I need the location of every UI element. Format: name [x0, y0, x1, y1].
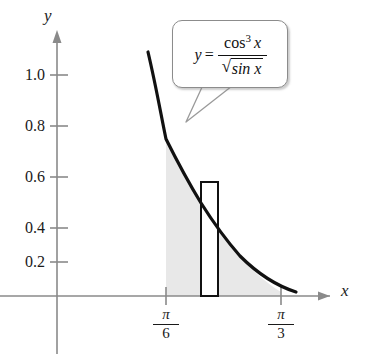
pi-symbol-2: π [268, 307, 294, 325]
denominator-6: 6 [153, 325, 179, 342]
formula-fraction: cos3x √ sin x [218, 32, 268, 78]
x-axis-arrow [318, 292, 330, 301]
radical-icon: √ [222, 57, 231, 77]
y-tick-label-2: 0.8 [5, 117, 45, 135]
pi-symbol-1: π [153, 307, 179, 325]
cos-text: cos [224, 34, 245, 51]
callout-pointer [186, 85, 232, 122]
riemann-rectangle [201, 182, 218, 296]
formula-callout-box: y = cos3x √ sin x [172, 20, 288, 88]
denominator-3: 3 [268, 325, 294, 342]
y-tick-label-4: 0.4 [5, 219, 45, 237]
x-tick-label-pi-over-3: π 3 [268, 307, 294, 342]
formula-expression: y = cos3x √ sin x [173, 21, 289, 89]
y-axis-label: y [44, 6, 52, 26]
shaded-area [166, 139, 281, 296]
formula-equals-sign: = [205, 46, 214, 64]
x-axis-label: x [341, 281, 349, 301]
numerator-variable: x [254, 34, 261, 51]
y-tick-label-5: 0.2 [5, 253, 45, 271]
radicand-sin-x: sin x [231, 58, 264, 78]
x-tick-label-pi-over-6: π 6 [153, 307, 179, 342]
square-root-group: √ sin x [222, 58, 264, 78]
y-axis-arrow [53, 30, 62, 43]
y-tick-label-1: 1.0 [5, 66, 45, 84]
formula-denominator: √ sin x [218, 56, 268, 78]
cos-exponent: 3 [245, 32, 251, 44]
formula-lhs: y [195, 46, 202, 64]
y-tick-label-3: 0.6 [5, 168, 45, 186]
formula-numerator: cos3x [218, 32, 268, 56]
math-figure: y x 1.0 0.8 0.6 0.4 0.2 π 6 π 3 y = cos3… [0, 0, 366, 354]
